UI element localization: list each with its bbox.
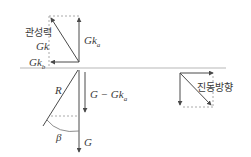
g-label: G <box>84 136 92 148</box>
gkb-label: Gkb <box>29 56 46 71</box>
resultant-group: R G − Gka G β <box>43 70 128 152</box>
vibration-direction-group: 진동방향 <box>180 73 233 107</box>
gk-vector-arrow <box>51 18 79 62</box>
g-minus-gka-label: G − Gka <box>90 88 128 103</box>
gka-label: Gka <box>84 34 101 49</box>
force-diagram: 관성력 Gk Gka Gkb R G − Gka G β 진동방향 <box>0 0 251 157</box>
beta-label: β <box>55 131 62 143</box>
diagram-svg: 관성력 Gk Gka Gkb R G − Gka G β 진동방향 <box>0 0 251 157</box>
vibration-direction-label: 진동방향 <box>197 82 233 93</box>
r-label: R <box>54 84 62 96</box>
inertial-force-label: 관성력 <box>25 27 52 38</box>
beta-angle-arc <box>47 120 79 132</box>
gk-label: Gk <box>36 40 50 52</box>
inertial-force-group: 관성력 Gk Gka Gkb <box>25 16 101 71</box>
r-line <box>43 70 78 126</box>
